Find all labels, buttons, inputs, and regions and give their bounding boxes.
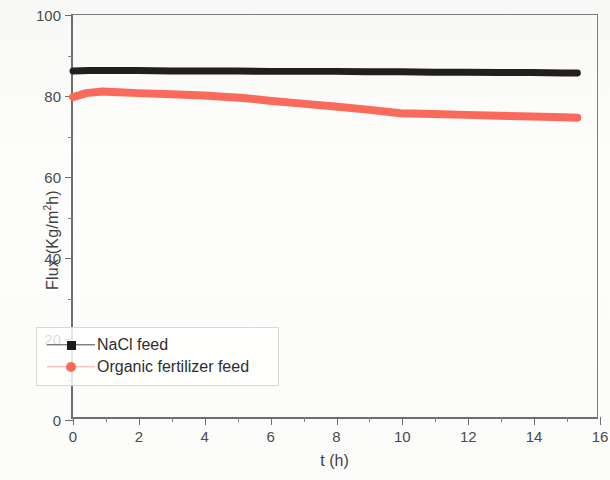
x-tick-label-12: 12	[460, 428, 477, 445]
x-tick-minor-5	[238, 417, 239, 422]
x-tick-14	[534, 417, 535, 425]
y-axis-title: Flux (Kg/m2h)	[42, 190, 61, 290]
series-line-nacl-feed	[73, 71, 577, 73]
legend-item-organic-fertilizer-feed: Organic fertilizer feed	[45, 356, 270, 378]
chart-screenshot: Flux (Kg/m2h) t (h) 020406080100 0246810…	[0, 0, 610, 480]
x-tick-label-6: 6	[266, 428, 274, 445]
x-tick-label-2: 2	[135, 428, 143, 445]
x-tick-10	[402, 417, 403, 425]
legend-item-nacl-feed: NaCl feed	[45, 334, 270, 356]
y-tick-label-40: 40	[44, 250, 61, 267]
y-tick-0	[65, 420, 73, 421]
y-tick-60	[65, 177, 73, 178]
y-tick-40	[65, 258, 73, 259]
x-tick-16	[600, 417, 601, 425]
x-tick-minor-15	[567, 417, 568, 422]
x-tick-minor-1	[106, 417, 107, 422]
x-axis-title: t (h)	[71, 452, 598, 470]
x-tick-label-10: 10	[394, 428, 411, 445]
y-axis-title-superscript: 2	[42, 205, 53, 211]
x-tick-12	[468, 417, 469, 425]
circle-marker-icon	[66, 362, 76, 372]
x-tick-minor-7	[304, 417, 305, 422]
x-tick-2	[139, 417, 140, 425]
x-tick-0	[73, 417, 74, 425]
y-tick-label-100: 100	[36, 7, 61, 24]
square-marker-icon	[67, 341, 76, 350]
legend-symbol-nacl-feed	[45, 337, 97, 353]
legend-symbol-organic-fertilizer-feed	[45, 359, 97, 375]
x-tick-label-16: 16	[592, 428, 609, 445]
y-tick-label-0: 0	[53, 412, 61, 429]
legend-label-organic-fertilizer-feed: Organic fertilizer feed	[97, 359, 249, 375]
legend-label-nacl-feed: NaCl feed	[97, 337, 168, 353]
x-tick-8	[337, 417, 338, 425]
x-tick-label-4: 4	[201, 428, 209, 445]
x-tick-minor-9	[369, 417, 370, 422]
y-tick-label-80: 80	[44, 88, 61, 105]
x-tick-6	[271, 417, 272, 425]
x-tick-minor-11	[435, 417, 436, 422]
legend: NaCl feed Organic fertilizer feed	[36, 327, 279, 386]
x-tick-label-0: 0	[69, 428, 77, 445]
y-tick-label-60: 60	[44, 169, 61, 186]
y-axis-title-suffix: h)	[44, 190, 61, 205]
x-tick-minor-3	[172, 417, 173, 422]
x-tick-label-8: 8	[332, 428, 340, 445]
y-tick-100	[65, 15, 73, 16]
x-tick-minor-13	[501, 417, 502, 422]
series-line-organic-fertilizer-feed	[73, 92, 577, 118]
x-tick-4	[205, 417, 206, 425]
x-tick-label-14: 14	[526, 428, 543, 445]
